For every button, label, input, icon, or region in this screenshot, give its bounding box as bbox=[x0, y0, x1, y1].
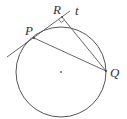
label-q: Q bbox=[110, 65, 120, 80]
point-q-dot bbox=[105, 70, 107, 72]
right-angle-mark bbox=[59, 19, 65, 22]
label-p: P bbox=[24, 23, 33, 38]
point-p-dot bbox=[33, 37, 35, 39]
label-r: R bbox=[52, 2, 61, 17]
point-r-dot bbox=[61, 16, 63, 18]
center-dot bbox=[60, 71, 62, 73]
label-t: t bbox=[75, 3, 79, 18]
segment-rq bbox=[62, 17, 106, 71]
geometry-figure: R t P Q bbox=[0, 0, 127, 119]
